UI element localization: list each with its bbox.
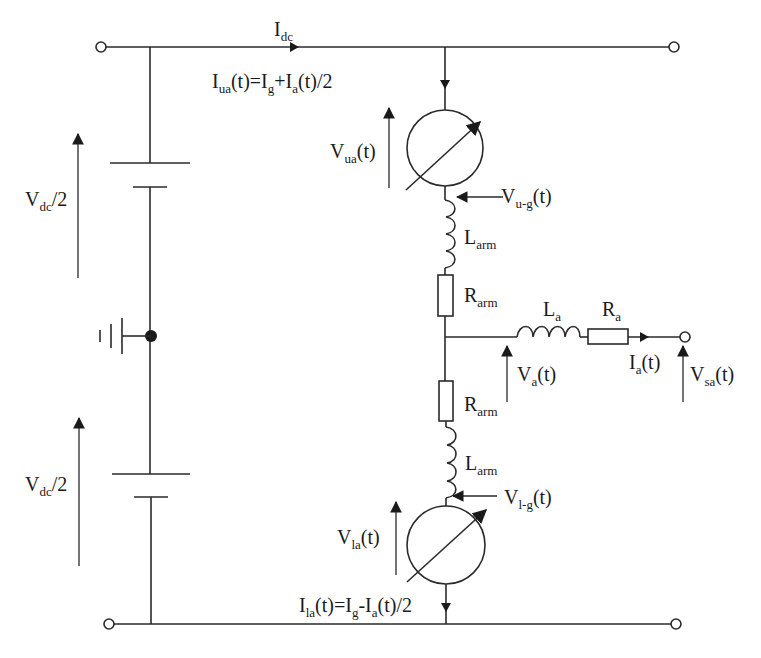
- dc-source-column: [78, 47, 190, 624]
- label-vsa: Vsa(t): [690, 363, 734, 389]
- ia-arrow-icon: [640, 332, 649, 342]
- label-rarm-lower: Rarm: [464, 393, 498, 419]
- lower-arm-variable-source-icon: [407, 506, 486, 584]
- label-vla: Vla(t): [337, 526, 380, 552]
- label-vlg: Vl-g(t): [504, 486, 552, 512]
- label-ila: Ila(t)=Ig-Ia(t)/2: [299, 594, 412, 620]
- label-rarm-upper: Rarm: [464, 284, 498, 310]
- label-vug: Vu-g(t): [501, 185, 552, 211]
- top-dc-rail: [96, 42, 679, 52]
- label-vua: Vua(t): [330, 140, 376, 166]
- upper-arm-resistor-icon: [438, 275, 453, 316]
- ac-resistor-icon: [588, 329, 628, 344]
- bottom-dc-rail: [104, 619, 681, 629]
- ground-icon: [100, 318, 157, 354]
- upper-arm-inductor-icon: [445, 200, 455, 268]
- dc-terminal-top-right: [669, 42, 679, 52]
- dc-terminal-bottom-right: [671, 619, 681, 629]
- dc-terminal-bottom-left: [104, 619, 114, 629]
- label-la: La: [543, 298, 561, 324]
- label-iua: Iua(t)=Ig+Ia(t)/2: [212, 70, 332, 96]
- ac-inductor-icon: [517, 327, 580, 338]
- phase-leg: [389, 47, 690, 624]
- iua-arrow-icon: [440, 80, 450, 89]
- label-idc: Idc: [274, 18, 293, 44]
- lower-arm-inductor-icon: [446, 427, 456, 498]
- mmc-circuit-diagram: Idc Iua(t)=Ig+Ia(t)/2 Vua(t) Vu-g(t) Lar…: [0, 0, 761, 658]
- ac-terminal: [680, 332, 690, 342]
- label-vdc-lower: Vdc/2: [25, 473, 67, 499]
- label-vdc-upper: Vdc/2: [25, 188, 67, 214]
- ila-arrow-icon: [441, 603, 451, 612]
- label-va: Va(t): [517, 363, 556, 389]
- label-ia: Ia(t): [629, 351, 660, 377]
- label-ra: Ra: [602, 298, 621, 324]
- label-larm-lower: Larm: [465, 452, 497, 478]
- lower-arm-resistor-icon: [439, 381, 453, 421]
- upper-arm-variable-source-icon: [406, 110, 483, 190]
- dc-terminal-top-left: [96, 42, 106, 52]
- label-larm-upper: Larm: [464, 226, 496, 252]
